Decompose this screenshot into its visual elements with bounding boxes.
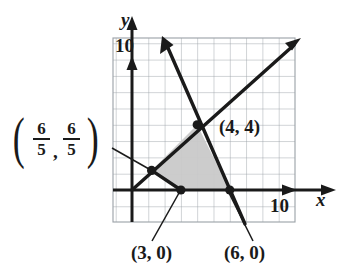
close-paren: ) (87, 109, 99, 167)
fraction-comma: , (53, 141, 58, 163)
point-label-6-0: (6, 0) (224, 243, 265, 262)
fraction-first-numerator: 6 (31, 120, 52, 137)
y-axis-label: y (121, 10, 129, 29)
point-4-4 (193, 120, 202, 129)
fraction-first: 6 5 (31, 120, 52, 158)
point-label-4-4: (4, 4) (219, 117, 260, 136)
y-axis-tick-10: 10 (115, 36, 134, 55)
point-3-0 (176, 185, 185, 194)
open-paren: ( (13, 109, 25, 167)
point-6over5-6over5 (147, 166, 156, 175)
fraction-second-denominator: 5 (61, 141, 82, 158)
x-axis-tick-10: 10 (270, 196, 289, 215)
fraction-first-denominator: 5 (31, 141, 52, 158)
point-label-3-0: (3, 0) (131, 243, 172, 262)
x-axis-label: x (316, 190, 326, 209)
point-label-fraction: ( 6 5 , 6 5 ) (17, 108, 112, 182)
fraction-second: 6 5 (61, 120, 82, 158)
fraction-second-numerator: 6 (61, 120, 82, 137)
